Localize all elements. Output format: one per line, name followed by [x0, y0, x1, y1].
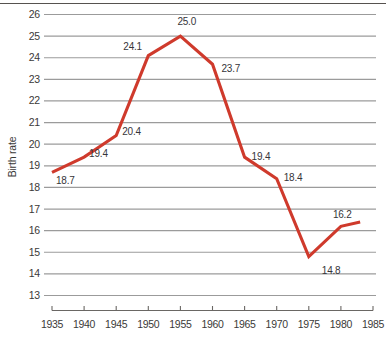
y-axis-tick-label-13: 13 — [18, 290, 40, 300]
data-point-label-1955: 25.0 — [177, 17, 196, 27]
x-axis-group — [52, 306, 373, 311]
data-point-label-1950: 24.1 — [123, 42, 142, 52]
x-axis-tick-label-1960: 1960 — [196, 319, 230, 330]
y-axis-tick-label-14: 14 — [18, 268, 40, 278]
data-point-label-1965: 19.4 — [252, 152, 271, 162]
y-axis-tick-label-23: 23 — [18, 74, 40, 84]
data-point-label-1970: 18.4 — [284, 173, 303, 183]
y-axis-tick-label-17: 17 — [18, 204, 40, 214]
y-axis-tick-label-22: 22 — [18, 95, 40, 105]
x-axis-tick-label-1975: 1975 — [292, 319, 326, 330]
y-axis-tick-label-16: 16 — [18, 225, 40, 235]
x-axis-tick-label-1985: 1985 — [356, 319, 386, 330]
x-axis-tick-label-1940: 1940 — [67, 319, 101, 330]
y-axis-tick-label-18: 18 — [18, 182, 40, 192]
data-point-label-1980: 16.2 — [333, 210, 352, 220]
x-axis-tick-label-1955: 1955 — [163, 319, 197, 330]
data-point-label-1960: 23.7 — [222, 64, 241, 74]
y-axis-tick-label-25: 25 — [18, 31, 40, 41]
y-axis-tick-label-20: 20 — [18, 139, 40, 149]
data-point-label-1940: 19.4 — [89, 149, 108, 159]
y-axis-tick-label-19: 19 — [18, 160, 40, 170]
x-axis-tick-label-1980: 1980 — [324, 319, 358, 330]
y-axis-tick-label-26: 26 — [18, 9, 40, 19]
birth-rate-data-line — [52, 36, 360, 256]
data-point-label-1935: 18.7 — [56, 176, 75, 186]
y-axis-tick-label-24: 24 — [18, 52, 40, 62]
y-axis-tick-label-21: 21 — [18, 117, 40, 127]
x-axis-tick-label-1965: 1965 — [228, 319, 262, 330]
data-point-label-1945: 20.4 — [122, 127, 141, 137]
y-axis-tick-label-15: 15 — [18, 247, 40, 257]
plot-area — [0, 0, 386, 343]
x-axis-tick-label-1970: 1970 — [260, 319, 294, 330]
birth-rate-line-chart: Birth rate 2625242322212019181716151413 … — [0, 0, 386, 343]
x-axis-tick-label-1945: 1945 — [99, 319, 133, 330]
data-point-label-1975: 14.8 — [322, 266, 341, 276]
x-axis-tick-label-1950: 1950 — [131, 319, 165, 330]
x-axis-tick-label-1935: 1935 — [35, 319, 69, 330]
